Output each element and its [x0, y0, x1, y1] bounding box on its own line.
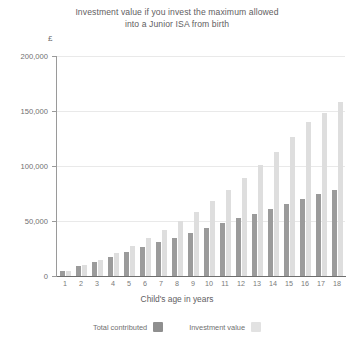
bar-investment-value — [210, 201, 215, 276]
bar-group — [201, 56, 217, 276]
bar-total-contributed — [188, 233, 193, 276]
bar-investment-value — [274, 152, 279, 276]
bar-group — [57, 56, 73, 276]
chart-title-line-2: into a Junior ISA from birth — [28, 18, 326, 30]
bar-total-contributed — [60, 271, 65, 276]
bar-investment-value — [146, 238, 151, 276]
bar-total-contributed — [92, 262, 97, 276]
y-axis-tick-label: 200,000 — [0, 52, 48, 61]
bar-group — [217, 56, 233, 276]
bar-total-contributed — [76, 266, 81, 276]
bar-group — [185, 56, 201, 276]
x-axis-tick-label: 8 — [169, 279, 185, 288]
bar-total-contributed — [236, 218, 241, 276]
x-axis-tick-label: 13 — [249, 279, 265, 288]
x-axis-tick-label: 5 — [121, 279, 137, 288]
bar-group — [265, 56, 281, 276]
x-axis-tick-label: 1 — [57, 279, 73, 288]
bar-investment-value — [98, 260, 103, 277]
bar-investment-value — [226, 190, 231, 276]
legend-item: Total contributed — [93, 322, 163, 332]
x-axis-tick-label: 7 — [153, 279, 169, 288]
bar-total-contributed — [140, 247, 145, 276]
x-axis-tick-label: 12 — [233, 279, 249, 288]
x-axis-tick-label: 6 — [137, 279, 153, 288]
x-axis-tick-label: 14 — [265, 279, 281, 288]
legend-item: Investment value — [189, 322, 261, 332]
bar-total-contributed — [220, 223, 225, 276]
y-axis-tick-label: 100,000 — [0, 162, 48, 171]
bar-group — [329, 56, 345, 276]
bar-group — [73, 56, 89, 276]
chart-legend: Total contributedInvestment value — [0, 322, 354, 332]
legend-swatch-investment-value — [251, 322, 261, 332]
chart-container: Investment value if you invest the maxim… — [0, 0, 354, 352]
bar-total-contributed — [156, 242, 161, 276]
bar-group — [233, 56, 249, 276]
bar-total-contributed — [268, 209, 273, 276]
bar-investment-value — [306, 122, 311, 276]
bar-investment-value — [178, 221, 183, 276]
y-axis-tick-label: 150,000 — [0, 107, 48, 116]
bar-total-contributed — [300, 199, 305, 276]
legend-swatch-total-contributed — [153, 322, 163, 332]
y-axis-tick-label: 0 — [0, 272, 48, 281]
x-axis-tick-label: 4 — [105, 279, 121, 288]
bar-investment-value — [194, 212, 199, 276]
bar-investment-value — [114, 253, 119, 276]
x-axis-tick-label: 10 — [201, 279, 217, 288]
bar-group — [313, 56, 329, 276]
bar-investment-value — [322, 113, 327, 276]
bar-total-contributed — [204, 228, 209, 276]
bar-group — [153, 56, 169, 276]
bar-total-contributed — [124, 252, 129, 276]
bar-total-contributed — [284, 204, 289, 276]
x-axis-tick-label: 3 — [89, 279, 105, 288]
bar-total-contributed — [172, 238, 177, 276]
legend-label: Investment value — [189, 323, 245, 332]
x-axis-tick-label: 16 — [297, 279, 313, 288]
bar-total-contributed — [108, 257, 113, 276]
chart-title-line-1: Investment value if you invest the maxim… — [28, 6, 326, 18]
y-axis-unit-label: £ — [48, 34, 52, 43]
x-axis-tick-label: 9 — [185, 279, 201, 288]
bar-investment-value — [338, 102, 343, 276]
x-axis-tick-label: 18 — [329, 279, 345, 288]
bar-groups — [57, 56, 345, 276]
x-axis-line — [56, 276, 346, 277]
x-axis-tick-label: 15 — [281, 279, 297, 288]
x-axis-tick-label: 17 — [313, 279, 329, 288]
bar-group — [249, 56, 265, 276]
bar-investment-value — [130, 246, 135, 276]
chart-title: Investment value if you invest the maxim… — [0, 6, 354, 30]
bar-investment-value — [66, 271, 71, 276]
bar-group — [169, 56, 185, 276]
y-axis-tick — [52, 276, 57, 277]
x-axis-tick-labels: 123456789101112131415161718 — [57, 279, 345, 288]
x-axis-tick-label: 2 — [73, 279, 89, 288]
bar-group — [105, 56, 121, 276]
y-axis-tick-label: 50,000 — [0, 217, 48, 226]
bar-group — [121, 56, 137, 276]
bar-total-contributed — [252, 214, 257, 276]
bar-group — [89, 56, 105, 276]
bar-group — [281, 56, 297, 276]
bar-investment-value — [162, 230, 167, 276]
bar-investment-value — [290, 137, 295, 276]
bar-total-contributed — [332, 190, 337, 276]
legend-label: Total contributed — [93, 323, 147, 332]
bar-investment-value — [82, 265, 87, 276]
bar-investment-value — [258, 165, 263, 276]
x-axis-title: Child's age in years — [0, 294, 354, 304]
bar-total-contributed — [316, 194, 321, 276]
bar-group — [137, 56, 153, 276]
x-axis-tick-label: 11 — [217, 279, 233, 288]
bar-investment-value — [242, 178, 247, 276]
bar-group — [297, 56, 313, 276]
